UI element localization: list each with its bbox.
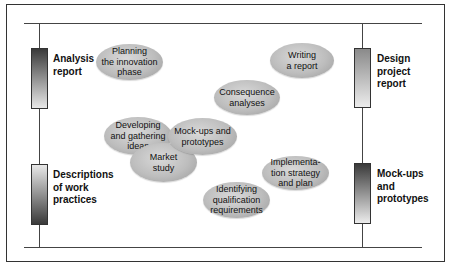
activity-label: Consequence analyses [219, 87, 275, 108]
work-practices-label: Descriptions of work practices [53, 169, 114, 207]
mockups-prototypes-bar [354, 163, 371, 224]
activity-implementation-strategy: Implementa- tion strategy and plan [262, 156, 329, 190]
activity-mockups-prototypes: Mock-ups and prototypes [168, 118, 237, 155]
work-practices-bar [31, 164, 48, 225]
design-project-report-label: Design project report [377, 53, 410, 91]
activity-label: Implementa- tion strategy and plan [270, 157, 320, 189]
activity-label: Writing a report [286, 50, 317, 71]
activity-writing-report: Writing a report [270, 43, 334, 78]
bottom-rail [24, 247, 422, 248]
activity-label: Planning the innovation phase [101, 46, 157, 78]
activity-planning-innovation: Planning the innovation phase [96, 44, 163, 80]
activity-consequence-analyses: Consequence analyses [214, 80, 280, 115]
analysis-report-label: Analysis report [53, 53, 94, 78]
mockups-prototypes-label: Mock-ups and prototypes [377, 168, 429, 206]
analysis-report-bar [31, 48, 48, 109]
activity-label: Market study [150, 152, 178, 173]
activity-label: Identifying qualification requirements [210, 184, 263, 216]
activity-label: Mock-ups and prototypes [174, 126, 231, 147]
activity-identifying-qualification: Identifying qualification requirements [203, 182, 270, 218]
design-project-report-bar [354, 48, 371, 108]
